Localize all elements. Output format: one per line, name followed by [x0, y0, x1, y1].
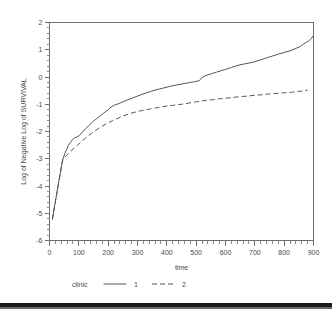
x-axis: 0100200300400500600700800900 — [48, 241, 320, 256]
survival-loglog-chart: 0100200300400500600700800900 210-1-2-3-4… — [0, 0, 332, 313]
legend-title: clinic — [72, 281, 88, 288]
legend-label-1: 1 — [134, 281, 138, 288]
x-axis-title: time — [175, 264, 188, 271]
y-tick-label: -3 — [36, 155, 42, 162]
y-tick-label: -4 — [36, 183, 42, 190]
chart-legend: clinic12 — [72, 281, 186, 288]
x-tick-label: 800 — [278, 249, 290, 256]
y-axis-title: Log of Negative Log of SURVIVAL — [20, 78, 28, 184]
x-tick-label: 400 — [161, 249, 173, 256]
legend-label-2: 2 — [182, 281, 186, 288]
x-tick-label: 200 — [102, 249, 114, 256]
figure-container: 0100200300400500600700800900 210-1-2-3-4… — [0, 0, 332, 313]
y-tick-label: -1 — [36, 101, 42, 108]
y-tick-label: -5 — [36, 210, 42, 217]
series-line-clinic-1 — [52, 36, 312, 219]
y-tick-label: 1 — [39, 46, 43, 53]
x-tick-label: 600 — [220, 249, 232, 256]
y-tick-label: -2 — [36, 128, 42, 135]
series-line-clinic-2 — [52, 90, 307, 219]
bottom-divider-shadow — [0, 307, 332, 309]
series-layer — [52, 36, 312, 219]
y-tick-label: 2 — [39, 19, 43, 26]
x-tick-label: 700 — [249, 249, 261, 256]
x-tick-label: 300 — [132, 249, 144, 256]
x-tick-label: 900 — [308, 249, 320, 256]
x-tick-label: 0 — [48, 249, 52, 256]
y-tick-label: 0 — [39, 74, 43, 81]
x-tick-label: 500 — [190, 249, 202, 256]
y-tick-label: -6 — [36, 237, 42, 244]
y-axis: 210-1-2-3-4-5-6 — [36, 19, 49, 244]
x-tick-label: 100 — [73, 249, 85, 256]
